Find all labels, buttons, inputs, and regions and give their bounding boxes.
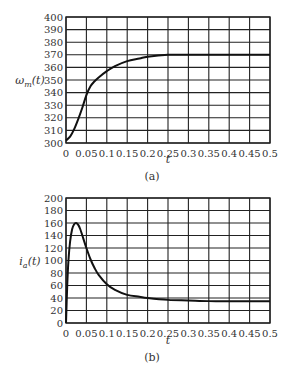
x-axis-label: t: [166, 153, 171, 166]
x-tick-label: 0.35: [198, 148, 220, 159]
y-tick-label: 100: [44, 255, 63, 266]
y-tick-label: 120: [44, 243, 63, 254]
y-tick-label: 320: [44, 112, 63, 123]
y-tick-label: 330: [44, 100, 63, 111]
x-tick-label: 0.3: [180, 148, 196, 159]
x-tick-label: 0.05: [75, 148, 97, 159]
x-tick-label: 0.1: [99, 328, 115, 339]
panel-caption: (a): [144, 170, 159, 183]
chart-panel-a: 30031032033034035036037038039040000.050.…: [15, 12, 278, 184]
x-tick-label: 0.35: [198, 328, 220, 339]
y-axis-label: ωm(t): [15, 74, 45, 89]
x-tick-label: 0.45: [238, 328, 260, 339]
x-tick-label: 0.1: [99, 148, 115, 159]
y-tick-label: 160: [44, 218, 63, 229]
x-axis-label: t: [166, 334, 171, 347]
x-tick-label: 0.05: [75, 328, 97, 339]
y-tick-label: 60: [50, 280, 63, 291]
x-tick-label: 0.4: [221, 328, 237, 339]
x-tick-label: 0.4: [221, 148, 237, 159]
y-tick-label: 200: [44, 193, 63, 204]
x-tick-label: 0: [63, 148, 69, 159]
x-tick-label: 0.2: [140, 148, 156, 159]
y-tick-label: 310: [44, 125, 63, 136]
grid: [66, 198, 270, 323]
panel-caption: (b): [144, 351, 160, 364]
chart-panel-b: 02040608010012014016018020000.050.10.150…: [19, 193, 278, 365]
x-tick-label: 0: [63, 328, 69, 339]
y-tick-label: 340: [44, 87, 63, 98]
x-tick-label: 0.5: [262, 328, 278, 339]
y-tick-label: 360: [44, 62, 63, 73]
y-tick-label: 350: [44, 75, 63, 86]
y-tick-label: 0: [57, 318, 63, 329]
x-tick-label: 0.45: [238, 148, 260, 159]
y-tick-label: 300: [44, 138, 63, 149]
y-tick-label: 370: [44, 49, 63, 60]
y-tick-label: 20: [50, 305, 63, 316]
y-axis-label: ia(t): [19, 255, 40, 270]
y-tick-label: 180: [44, 205, 63, 216]
x-tick-label: 0.5: [262, 148, 278, 159]
x-tick-label: 0.2: [140, 328, 156, 339]
y-tick-label: 390: [44, 24, 63, 35]
y-tick-label: 80: [50, 268, 63, 279]
x-tick-label: 0.15: [116, 328, 138, 339]
y-tick-label: 380: [44, 37, 63, 48]
figure: 30031032033034035036037038039040000.050.…: [0, 0, 286, 372]
y-tick-label: 140: [44, 230, 63, 241]
y-tick-label: 40: [50, 293, 63, 304]
x-tick-label: 0.3: [180, 328, 196, 339]
x-tick-label: 0.15: [116, 148, 138, 159]
y-tick-label: 400: [44, 12, 63, 23]
